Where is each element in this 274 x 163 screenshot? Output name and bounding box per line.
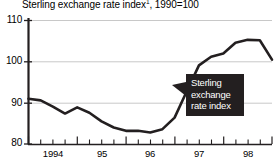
x-tick-label-97: 97 (179, 148, 219, 159)
callout-line-2: exchange (191, 89, 240, 101)
y-tick-label-110: 110 (0, 14, 22, 25)
y-tick-label-100: 100 (0, 55, 22, 66)
x-axis-minor-ticks (41, 140, 261, 145)
callout-pointer (172, 82, 186, 96)
series-callout-box: Sterling exchange rate index (186, 74, 244, 116)
y-tick-label-80: 80 (0, 137, 22, 148)
chart-container: Sterling exchange rate index1, 1990=100 (0, 0, 274, 163)
callout-line-1: Sterling (191, 77, 240, 89)
callout-line-3: rate index (191, 100, 240, 112)
x-tick-label-98: 98 (228, 148, 268, 159)
x-tick-label-96: 96 (130, 148, 170, 159)
y-tick-label-90: 90 (0, 97, 22, 108)
x-tick-label-1994: 1994 (33, 148, 73, 159)
x-tick-label-95: 95 (82, 148, 122, 159)
